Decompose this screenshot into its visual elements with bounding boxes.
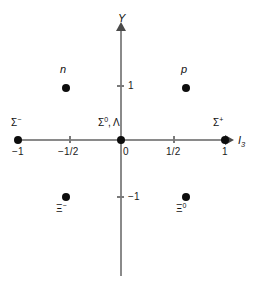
point-dot-sigma-zero-lambda	[117, 136, 125, 144]
y-tick-mark	[117, 196, 124, 198]
x-tick-label: −1	[12, 146, 24, 157]
point-dot-proton	[182, 84, 190, 92]
point-label-sigma-plus: Σ+	[213, 117, 223, 128]
xi-zero-charge: 0	[183, 202, 187, 209]
xi-minus-charge: −	[63, 202, 67, 209]
weight-diagram: Y I3 −1 −1/2 0 1/2 1 1 −1 n p Σ− Σ0, Λ Σ…	[0, 0, 265, 282]
x-tick-mark	[69, 136, 71, 143]
x-tick-label: 1	[222, 146, 228, 157]
x-tick-label: 1/2	[166, 146, 181, 157]
point-dot-sigma-minus	[14, 136, 22, 144]
point-dot-xi-zero	[182, 193, 190, 201]
lambda-symbol: , Λ	[108, 117, 120, 128]
y-tick-label: −1	[128, 191, 140, 202]
point-dot-sigma-plus	[221, 136, 229, 144]
y-axis-title: Y	[118, 12, 125, 24]
point-dot-xi-minus	[62, 193, 70, 201]
y-axis-line	[120, 28, 122, 276]
sigma-plus-charge: +	[219, 116, 223, 123]
point-label-sigma-zero-lambda: Σ0, Λ	[98, 117, 120, 128]
y-tick-label: 1	[128, 80, 134, 91]
y-tick-mark	[117, 85, 124, 87]
x-tick-label: 0	[123, 146, 129, 157]
sigma-minus-charge: −	[17, 116, 21, 123]
point-dot-neutron	[62, 84, 70, 92]
x-axis-title: I3	[238, 134, 245, 149]
x-axis-title-subscript: 3	[241, 140, 245, 149]
point-label-proton: p	[181, 63, 187, 75]
point-label-xi-minus: Ξ−	[56, 203, 67, 214]
point-label-sigma-minus: Σ−	[11, 117, 21, 128]
x-tick-mark	[173, 136, 175, 143]
point-label-xi-zero: Ξ0	[176, 203, 186, 214]
x-tick-label: −1/2	[58, 146, 79, 157]
point-label-neutron: n	[60, 63, 66, 75]
